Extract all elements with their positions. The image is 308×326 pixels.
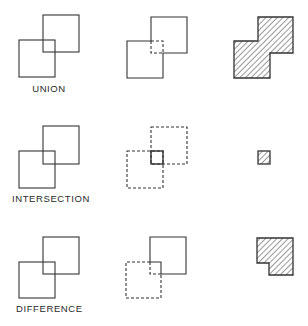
difference-hatched-region bbox=[257, 238, 293, 275]
square-a bbox=[19, 262, 55, 298]
union-label: UNION bbox=[30, 83, 68, 94]
union-result bbox=[234, 17, 293, 78]
square-b bbox=[43, 237, 79, 274]
union-input-squares bbox=[19, 15, 79, 77]
square-b bbox=[43, 15, 79, 52]
overlap-dashed bbox=[150, 262, 161, 274]
overlap-solid bbox=[151, 151, 163, 164]
difference-label: DIFFERENCE bbox=[16, 303, 78, 314]
intersection-construction bbox=[127, 127, 187, 188]
square-b bbox=[43, 126, 79, 164]
union-hatched-region bbox=[234, 17, 293, 78]
intersection-hatched-region bbox=[258, 151, 270, 164]
intersection-result bbox=[258, 151, 270, 164]
intersection-input-squares bbox=[19, 126, 79, 188]
intersection-label: INTERSECTION bbox=[12, 193, 88, 204]
difference-result bbox=[257, 238, 293, 275]
union-boundary bbox=[127, 17, 187, 78]
difference-construction bbox=[126, 237, 186, 298]
square-a bbox=[19, 151, 55, 188]
square-a-dashed bbox=[126, 262, 161, 298]
square-a bbox=[19, 40, 55, 77]
difference-boundary-solid bbox=[150, 237, 186, 274]
difference-input-squares bbox=[19, 237, 79, 298]
union-internal-dashed-edges bbox=[151, 41, 163, 53]
square-b-dashed bbox=[151, 127, 187, 164]
union-construction bbox=[127, 17, 187, 78]
boolean-operations-diagram bbox=[0, 0, 308, 326]
square-a-dashed bbox=[127, 151, 163, 188]
